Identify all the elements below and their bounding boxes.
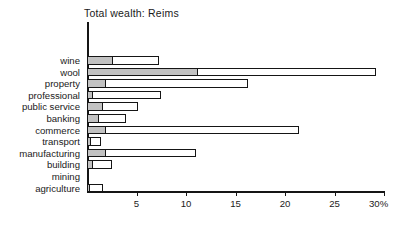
- category-label: transport: [0, 136, 84, 148]
- category-label: professional: [0, 90, 84, 102]
- x-axis-tick: [384, 191, 385, 196]
- bar-row: [87, 159, 387, 171]
- bar-row: [87, 55, 387, 67]
- bar-inner-segment: [87, 137, 91, 146]
- bar-inner-segment: [87, 114, 99, 123]
- category-label: wine: [0, 55, 84, 67]
- x-axis-tick: [285, 191, 286, 196]
- bar-outer-segment: [87, 126, 299, 135]
- x-axis-tick-label: 5: [134, 198, 139, 209]
- bar-row: [87, 171, 387, 183]
- x-axis-tick-label: 25: [329, 198, 340, 209]
- category-label: commerce: [0, 125, 84, 137]
- bar-outer-segment: [87, 79, 248, 88]
- bar-inner-segment: [87, 68, 198, 77]
- category-label: building: [0, 159, 84, 171]
- x-axis-tick-label: 30%: [369, 198, 388, 209]
- category-label: mining: [0, 171, 84, 183]
- bar-row: [87, 67, 387, 79]
- x-axis-tick: [186, 191, 187, 196]
- bar-inner-segment: [87, 184, 90, 193]
- category-label: banking: [0, 113, 84, 125]
- bar-outer-segment: [87, 91, 161, 100]
- category-label: agriculture: [0, 183, 84, 195]
- bar-inner-segment: [87, 91, 93, 100]
- bar-row: [87, 148, 387, 160]
- category-label: manufacturing: [0, 148, 84, 160]
- x-axis-tick: [137, 191, 138, 196]
- bar-inner-segment: [87, 56, 113, 65]
- bar-row: [87, 183, 387, 195]
- x-axis-tick: [335, 191, 336, 196]
- category-axis-labels: winewoolpropertyprofessionalpublic servi…: [0, 55, 84, 194]
- bar-inner-segment: [87, 79, 106, 88]
- category-label: public service: [0, 101, 84, 113]
- bar-row: [87, 78, 387, 90]
- bar-inner-segment: [87, 126, 106, 135]
- category-label: wool: [0, 67, 84, 79]
- chart-title: Total wealth: Reims: [84, 7, 179, 19]
- bar-row: [87, 136, 387, 148]
- x-axis-tick-label: 20: [280, 198, 291, 209]
- x-axis-tick-label: 10: [181, 198, 192, 209]
- bar-row: [87, 113, 387, 125]
- bar-inner-segment: [87, 160, 93, 169]
- bar-row: [87, 90, 387, 102]
- x-axis-tick: [236, 191, 237, 196]
- chart-page: Total wealth: Reims winewoolpropertyprof…: [0, 0, 397, 232]
- bar-inner-segment: [87, 102, 103, 111]
- bar-row: [87, 125, 387, 137]
- x-axis-tick-label: 15: [230, 198, 241, 209]
- category-label: property: [0, 78, 84, 90]
- bar-inner-segment: [87, 149, 106, 158]
- bar-row: [87, 101, 387, 113]
- bar-series-group: [87, 55, 387, 194]
